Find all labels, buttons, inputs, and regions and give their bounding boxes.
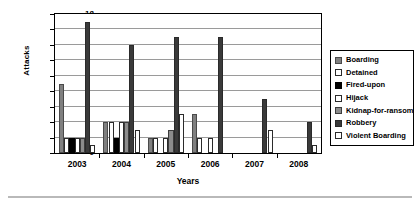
legend-item-label: Kidnap-for-ransom [346, 107, 414, 115]
legend-item: Detained [335, 67, 410, 80]
bar [179, 114, 184, 153]
legend-item-label: Hijack [346, 94, 368, 102]
x-axis-tick: 2007 [232, 159, 278, 169]
y-axis-title: Attacks [22, 31, 31, 91]
bar [85, 22, 90, 153]
legend-swatch-icon [335, 57, 342, 64]
chart-legend: BoardingDetainedFired-uponHijackKidnap-f… [330, 50, 414, 146]
footer-divider [8, 196, 412, 198]
x-axis-tick: 2008 [276, 159, 322, 169]
bar [268, 130, 273, 153]
legend-swatch-icon [335, 82, 342, 89]
legend-item-label: Detained [346, 69, 378, 77]
legend-swatch-icon [335, 69, 342, 76]
bar [90, 145, 95, 153]
bar-series-container [55, 14, 321, 153]
bar [218, 37, 223, 153]
legend-swatch-icon [335, 95, 342, 102]
bar [153, 138, 158, 153]
x-axis-tick-mark [188, 154, 189, 158]
x-axis-tick: 2006 [187, 159, 233, 169]
x-axis-tick-mark [277, 154, 278, 158]
legend-item-label: Violent Boarding [346, 132, 406, 140]
x-axis-tick-mark [99, 154, 100, 158]
legend-item: Hijack [335, 92, 410, 105]
legend-item: Kidnap-for-ransom [335, 104, 410, 117]
legend-item: Robbery [335, 117, 410, 130]
x-axis-tick: 2004 [99, 159, 145, 169]
legend-item: Violent Boarding [335, 130, 410, 143]
legend-item: Fired-upon [335, 79, 410, 92]
legend-swatch-icon [335, 132, 342, 139]
chart-figure: Attacks 024681012141618 2003200420052006… [0, 0, 420, 206]
bar [197, 138, 202, 153]
x-axis-tick: 2003 [54, 159, 100, 169]
bar [312, 145, 317, 153]
plot-area [54, 13, 322, 154]
legend-item-label: Boarding [346, 56, 379, 64]
bar [208, 138, 213, 153]
legend-swatch-icon [335, 120, 342, 127]
legend-item-label: Fired-upon [346, 81, 385, 89]
x-axis-tick-mark [144, 154, 145, 158]
bar [135, 130, 140, 153]
x-axis-tick-mark [232, 154, 233, 158]
legend-item-label: Robbery [346, 119, 376, 127]
legend-item: Boarding [335, 54, 410, 67]
legend-swatch-icon [335, 107, 342, 114]
x-axis-tick: 2005 [143, 159, 189, 169]
x-axis-title: Years [150, 176, 226, 186]
